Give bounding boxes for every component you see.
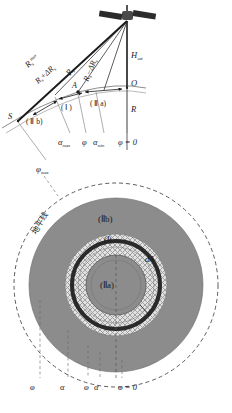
leader-phi bbox=[78, 94, 86, 133]
tick-phi-zero-bot: φ = 0 bbox=[118, 382, 138, 392]
tick-alpha-min-bot: αmin bbox=[94, 382, 106, 393]
label-rs-max: Rsmax bbox=[22, 52, 41, 70]
label-zone-I-bottom: (Ⅰ) bbox=[104, 235, 112, 244]
ray-rs-plus-drs bbox=[55, 21, 127, 95]
bottom-angle-tick-labels: φmax αmax φ αmin φ = 0 bbox=[30, 382, 138, 393]
label-point-S: S bbox=[8, 111, 13, 121]
top-panel: Rsmax Rs+ΔRs Rs Rs−ΔRs Hsat O S A R ( Ⅰ … bbox=[2, 5, 156, 160]
tick-phi-bot: φ bbox=[84, 382, 89, 392]
tick-alpha-max-bot: αmax bbox=[60, 382, 72, 393]
point-S-dot bbox=[17, 120, 19, 122]
tick-phi-max-bot: φmax bbox=[30, 382, 42, 393]
diagram-svg: Rsmax Rs+ΔRs Rs Rs−ΔRs Hsat O S A R ( Ⅰ … bbox=[0, 0, 232, 413]
label-zone-IIa-top: ( Ⅱ a) bbox=[90, 99, 107, 108]
label-point-A: A bbox=[71, 81, 77, 90]
earth-surface-arc bbox=[2, 86, 146, 128]
tick-alpha-max-top: αmax bbox=[58, 137, 70, 148]
figure-container: Rsmax Rs+ΔRs Rs Rs−ΔRs Hsat O S A R ( Ⅰ … bbox=[0, 0, 232, 413]
tick-phi-zero-top: φ = 0 bbox=[118, 137, 138, 147]
tick-phi-top: φ bbox=[82, 137, 87, 147]
label-point-O: O bbox=[131, 78, 137, 88]
label-zone-IIb-bottom: (Ⅱb) bbox=[98, 214, 113, 224]
leader-phi-max-callout bbox=[44, 176, 58, 196]
leader-phi-max bbox=[18, 122, 46, 160]
label-zone-I-top: ( Ⅰ ) bbox=[61, 103, 72, 112]
label-dA: dA bbox=[145, 254, 155, 264]
top-angle-tick-labels: αmax φ αmin φ = 0 bbox=[58, 137, 138, 148]
bottom-panel: 地平线 φmax (Ⅱb) (Ⅰ) (Ⅱa) dA φmax αmax φ αm… bbox=[14, 164, 218, 393]
label-zone-IIa-bottom: (Ⅱa) bbox=[100, 280, 114, 290]
label-rs-plus-drs: Rs+ΔRs bbox=[33, 63, 58, 87]
point-O-dot bbox=[126, 87, 128, 89]
label-h-sat: Hsat bbox=[130, 50, 143, 61]
label-rs: Rs bbox=[63, 66, 76, 79]
label-zone-IIb-top: ( Ⅱ b) bbox=[26, 117, 43, 126]
label-earth-radius: R bbox=[130, 104, 137, 114]
tick-alpha-min-top: αmin bbox=[93, 137, 105, 148]
satellite-icon bbox=[99, 5, 156, 20]
point-A-dot bbox=[76, 90, 79, 93]
top-panel-labels: Rsmax Rs+ΔRs Rs Rs−ΔRs Hsat O S A R ( Ⅰ … bbox=[8, 50, 143, 126]
label-phi-max-top-bottom-panel: φmax bbox=[36, 164, 49, 175]
